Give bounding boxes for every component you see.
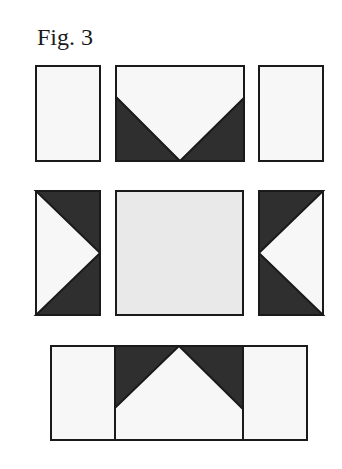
bottom-strip: [51, 346, 307, 440]
top-right-rectangle: [259, 66, 323, 161]
center-square: [116, 191, 243, 315]
top-flying-geese-unit: [116, 66, 244, 161]
quilt-block-diagram: [0, 0, 342, 469]
top-row: [36, 66, 323, 161]
middle-row: [36, 191, 323, 315]
right-flying-geese-unit: [259, 191, 323, 315]
top-left-rectangle: [36, 66, 100, 161]
left-flying-geese-unit: [36, 191, 100, 315]
bottom-row: [51, 346, 307, 440]
